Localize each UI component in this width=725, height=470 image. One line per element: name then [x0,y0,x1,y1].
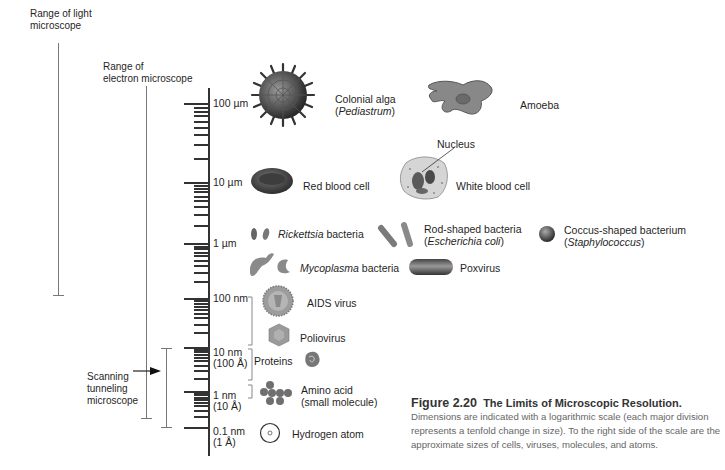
minor-tick [194,394,208,396]
white-blood-cell-label: White blood cell [456,180,530,192]
red-blood-cell-label: Red blood cell [303,180,370,192]
minor-tick [194,144,208,146]
mycoplasma-label: Mycoplasma bacteria [300,262,399,274]
stm-range-cap-bottom [161,427,172,428]
poliovirus-icon [267,323,291,347]
minor-tick [194,405,208,407]
minor-tick [194,111,208,113]
caption-title: Figure 2.20 The Limits of Microscopic Re… [411,396,721,410]
minor-tick [194,272,208,274]
minor-tick [194,399,208,401]
minor-tick [194,248,208,250]
electron-range-line2: electron microscope [103,73,192,85]
minor-tick [194,281,208,283]
scale-label-10nm: 10 nm(100 Å) [213,347,247,369]
scale-label-100nm: 100 nm [213,293,248,304]
log-scale-axis [208,88,210,456]
mycoplasma-icon [246,250,296,278]
hydrogen-atom-icon [259,422,281,444]
minor-tick [194,121,208,123]
minor-tick [194,360,208,362]
nucleus-label: Nucleus [437,138,475,150]
minor-tick [194,357,208,359]
minor-tick [194,252,208,254]
figure-title: The Limits of Microscopic Resolution. [483,397,682,409]
stm-line3: microscope [87,395,138,407]
minor-tick [194,378,208,380]
light-range-line2: microscope [30,20,92,32]
minor-tick [194,332,208,334]
scale-label-0-1nm: 0.1 nm(1 Å) [213,426,245,448]
minor-tick [194,200,208,202]
minor-tick [194,306,208,308]
minor-tick [194,365,208,367]
minor-tick [194,255,208,257]
minor-tick [194,127,208,129]
scale-label-10um: 10 µm [213,177,242,188]
minor-tick [194,402,208,404]
amoeba-icon [425,77,497,119]
stm-range-label: Scanning tunneling microscope [87,371,138,407]
minor-tick [194,416,208,418]
aids-virus-icon [262,285,294,317]
coccus-bacterium-icon [538,225,556,243]
figure-caption: Figure 2.20 The Limits of Microscopic Re… [411,396,721,452]
major-tick [184,243,208,245]
minor-tick [194,185,208,187]
minor-tick [194,300,208,302]
nucleus-pointer-line [418,146,458,176]
minor-tick [194,134,208,136]
minor-tick [194,313,208,315]
amoeba-label: Amoeba [520,99,559,111]
minor-tick [194,351,208,353]
minor-tick [194,191,208,193]
major-tick [184,427,208,429]
minor-tick [194,317,208,319]
scale-label-1nm: 1 nm(10 Å) [213,390,242,412]
light-microscope-range-line [58,43,59,296]
rod-shaped-bacteria-icon [378,222,414,248]
minor-tick [194,107,208,109]
light-microscope-range-label: Range of light microscope [30,8,92,32]
stm-range-line [166,348,167,427]
red-blood-cell-icon [250,166,294,196]
minor-tick [194,225,208,227]
poxvirus-icon [408,257,454,277]
minor-tick [194,196,208,198]
coccus-bacterium-label: Coccus-shaped bacterium (Staphylococcus) [564,224,686,248]
proteins-label: Proteins [254,355,293,367]
amino-acid-label: Amino acid (small molecule) [301,384,377,408]
minor-tick [194,309,208,311]
major-tick [184,182,208,184]
stm-line2: tunneling [87,383,138,395]
rickettsia-icon [248,226,272,242]
scale-label-100um: 100 µm [213,98,248,109]
poliovirus-label: Poliovirus [300,332,346,344]
stm-range-cap-top [161,348,172,349]
scale-label-1um: 1 µm [213,238,237,249]
figure-number: Figure 2.20 [411,396,477,410]
minor-tick [194,206,208,208]
protein-icon [302,349,322,369]
minor-tick [194,410,208,412]
minor-tick [194,260,208,262]
minor-tick [194,370,208,372]
minor-tick [194,324,208,326]
aids-virus-label: AIDS virus [307,297,357,309]
minor-tick [194,265,208,267]
hydrogen-atom-label: Hydrogen atom [292,428,364,440]
stm-line1: Scanning [87,371,138,383]
caption-body: Dimensions are indicated with a logarith… [411,410,721,452]
light-microscope-range-cap [53,295,64,296]
minor-tick [194,354,208,356]
minor-tick [194,188,208,190]
minor-tick [194,115,208,117]
electron-microscope-range-cap [141,418,152,419]
rod-shaped-bacteria-label: Rod-shaped bacteria (Escherichia coli) [424,223,521,247]
major-tick [184,103,208,105]
amino-acid-icon [258,380,294,406]
poxvirus-label: Poxvirus [460,262,500,274]
rickettsia-label: Rickettsia bacteria [278,228,364,240]
minor-tick [194,214,208,216]
colonial-alga-icon [250,62,316,128]
